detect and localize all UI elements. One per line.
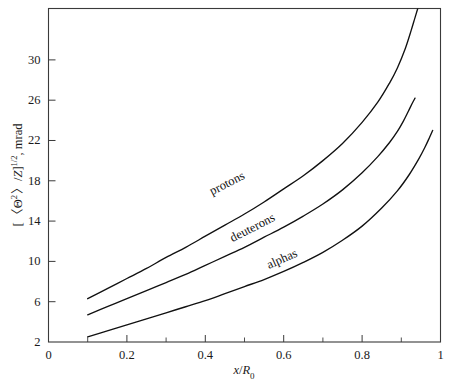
curve-label-deuterons: deuterons [228,210,278,245]
y-tick-label: 22 [28,133,41,147]
x-tick-label: 0.6 [276,348,292,362]
curve-alphas [88,130,433,337]
curve-labels: protonsdeuteronsalphas [207,168,299,271]
y-tick-label: 2 [34,335,40,349]
chart-figure: 00.20.40.60.81 26101418222630 protonsdeu… [0,0,456,386]
curve-label-alphas: alphas [265,246,300,272]
x-axis-title: x/R0 [232,363,255,381]
x-tick-label: 0.8 [354,348,370,362]
y-tick-label: 10 [28,254,41,268]
y-tick-label: 26 [28,93,41,107]
x-tick-label: 1 [437,348,443,362]
y-axis-ticks [49,60,56,302]
x-axis-tick-labels: 00.20.40.60.81 [45,348,443,362]
curve-deuterons [88,98,415,315]
x-axis-ticks [49,335,441,342]
y-tick-label: 14 [28,214,41,228]
plot-frame [49,9,441,343]
y-tick-label: 30 [28,53,41,67]
svg-text:x/R0: x/R0 [232,363,255,381]
x-tick-label: 0.4 [197,348,213,362]
curve-protons [88,9,418,299]
scatter-plot-svg: 00.20.40.60.81 26101418222630 protonsdeu… [0,0,456,386]
y-axis-title: [〈Θ2〉/Z]1/2, mrad [9,123,25,227]
svg-text:[〈Θ2〉/Z]1/2, mrad: [〈Θ2〉/Z]1/2, mrad [9,123,25,227]
x-tick-label: 0 [45,348,51,362]
curve-label-protons: protons [207,168,247,198]
x-tick-label: 0.2 [119,348,135,362]
y-tick-label: 6 [34,295,40,309]
data-curves [88,9,433,337]
y-axis-tick-labels: 26101418222630 [28,53,41,349]
y-tick-label: 18 [28,174,41,188]
